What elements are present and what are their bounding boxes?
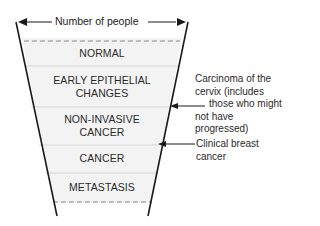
stage-metastasis: METASTASIS bbox=[40, 181, 164, 194]
stage-label-line: CANCER bbox=[40, 126, 164, 139]
stage-cancer: CANCER bbox=[40, 152, 164, 165]
stage-label: CANCER bbox=[80, 152, 125, 164]
annotation-cervix-carcinoma: Carcinoma of the cervix (includes those … bbox=[195, 73, 282, 136]
annotation-line: those who might bbox=[209, 98, 282, 111]
stage-label-line: EARLY EPITHELIAL bbox=[40, 74, 164, 87]
annotation-line: Clinical breast bbox=[196, 138, 259, 151]
stage-non-invasive-cancer: NON-INVASIVE CANCER bbox=[40, 113, 164, 139]
stage-label-line: CHANGES bbox=[40, 87, 164, 100]
stage-label-line: NON-INVASIVE bbox=[40, 113, 164, 126]
annotation-line: cervix (includes bbox=[195, 86, 282, 99]
annotation-line: Carcinoma of the bbox=[195, 73, 282, 86]
width-axis-label: Number of people bbox=[53, 15, 140, 27]
annotation-line: not have bbox=[195, 111, 282, 124]
stage-label: NORMAL bbox=[79, 47, 125, 59]
annotation-line: cancer bbox=[196, 151, 259, 164]
annotation-line: progressed) bbox=[195, 123, 282, 136]
stage-early-epithelial-changes: EARLY EPITHELIAL CHANGES bbox=[40, 74, 164, 100]
annotation-clinical-breast-cancer: Clinical breast cancer bbox=[196, 138, 259, 163]
stage-normal: NORMAL bbox=[40, 47, 164, 60]
stage-label: METASTASIS bbox=[69, 181, 135, 193]
